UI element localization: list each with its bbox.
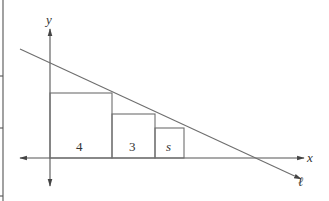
geometry-diagram: y x ℓ 4 3 s xyxy=(0,0,329,201)
square-3-label: 3 xyxy=(129,139,136,154)
x-axis-label: x xyxy=(306,150,313,165)
y-axis-label: y xyxy=(44,12,52,27)
square-s-label: s xyxy=(166,139,171,154)
square-4-label: 4 xyxy=(76,139,83,154)
line-l-label: ℓ xyxy=(298,174,304,189)
left-page-edge xyxy=(0,0,3,201)
line-l xyxy=(20,49,301,179)
